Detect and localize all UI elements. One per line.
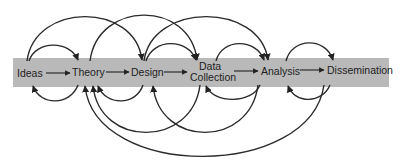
arc-design-to-analysis — [144, 17, 268, 61]
arc-analysis-to-design — [153, 85, 258, 132]
arc-ideas-to-design — [27, 17, 142, 61]
node-theory: Theory — [72, 66, 105, 78]
arc-design-to-theory — [98, 85, 143, 101]
feedforward-arcs — [27, 15, 333, 61]
arc-theory-to-ideas — [33, 85, 78, 101]
arc-analysis-to-data-collection — [206, 85, 260, 99]
research-process-diagram: Ideas Theory Design Data Collection Anal… — [0, 0, 402, 164]
node-dissemination: Dissemination — [327, 64, 393, 76]
arc-dissemination-to-theory — [85, 85, 324, 156]
arc-theory-to-data-collection — [90, 15, 197, 61]
node-analysis: Analysis — [261, 65, 300, 77]
feedback-arcs — [33, 85, 330, 156]
arc-data-collection-to-theory — [93, 85, 200, 132]
node-design: Design — [131, 66, 164, 78]
node-ideas: Ideas — [17, 67, 43, 79]
node-data-collection-line2: Collection — [190, 71, 236, 83]
